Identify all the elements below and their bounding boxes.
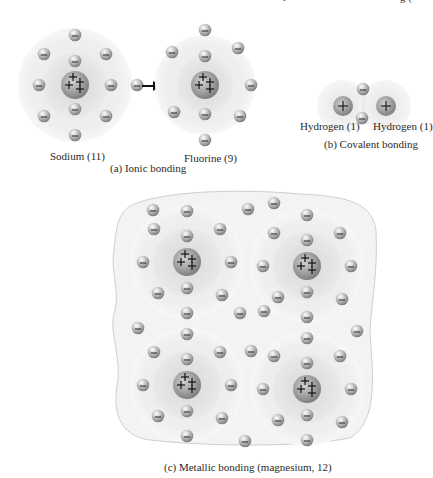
- sodium-label: Sodium (11): [50, 150, 105, 162]
- nucleus-icon: [191, 71, 219, 99]
- sodium-atom: [18, 28, 143, 142]
- nucleus-icon: [61, 71, 89, 99]
- nucleus-icon: [173, 248, 201, 276]
- nucleus-icon: [173, 371, 201, 399]
- hydrogen-nucleus-left-icon: [333, 96, 353, 116]
- nucleus-icon: [293, 375, 321, 403]
- magnesium-atom: [130, 328, 244, 443]
- hydrogen-left-label: Hydrogen (1): [300, 120, 360, 132]
- valence-electron: [131, 79, 144, 92]
- fluorine-atom: [155, 24, 257, 147]
- shared-electron: [357, 83, 370, 96]
- metallic-lattice: [113, 191, 377, 447]
- covalent-bonding-caption: (b) Covalent bonding: [324, 138, 418, 150]
- magnesium-atom: [130, 205, 244, 320]
- ionic-bonding-caption: (a) Ionic bonding: [110, 162, 186, 174]
- nucleus-icon: [293, 252, 321, 280]
- magnesium-atom: [250, 332, 364, 447]
- hydrogen-right-label: Hydrogen (1): [373, 120, 433, 132]
- metallic-bonding-caption: (c) Metallic bonding (magnesium, 12): [164, 461, 332, 473]
- fluorine-label: Fluorine (9): [184, 152, 237, 164]
- hydrogen-nucleus-right-icon: [376, 96, 396, 116]
